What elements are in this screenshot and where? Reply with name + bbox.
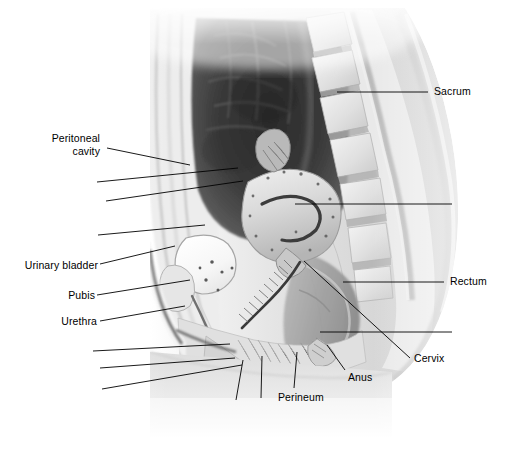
label-leader-lines xyxy=(0,0,512,473)
leader-uterus-upper xyxy=(97,168,238,182)
label-anus: Anus xyxy=(348,371,372,384)
leader-lower-3 xyxy=(102,365,242,389)
leader-vagina xyxy=(98,225,205,235)
leader-anus xyxy=(327,345,345,370)
labeled-leader-group xyxy=(97,92,444,388)
label-sacrum: Sacrum xyxy=(434,85,471,98)
label-perineum: Perineum xyxy=(278,391,324,404)
unlabeled-leader-group xyxy=(93,168,452,400)
leader-urethra xyxy=(100,306,185,321)
leader-pubis xyxy=(97,280,190,295)
leader-perineum xyxy=(294,352,297,388)
leader-lower-1 xyxy=(93,344,230,351)
label-peritoneal-cavity: Peritoneal cavity xyxy=(0,132,100,157)
label-rectum: Rectum xyxy=(450,275,487,288)
leader-uterus-lower xyxy=(106,181,243,201)
leader-lower-2 xyxy=(100,358,235,368)
label-pubis: Pubis xyxy=(0,289,95,302)
leader-peritoneal-cavity xyxy=(107,148,190,165)
label-cervix: Cervix xyxy=(414,352,444,365)
label-peritoneal-cavity-line1: Peritoneal xyxy=(0,132,100,145)
leader-clitoris xyxy=(261,356,262,398)
label-urinary-bladder: Urinary bladder xyxy=(0,259,98,272)
label-urethra: Urethra xyxy=(0,315,97,328)
anatomical-figure: Peritoneal cavity Urinary bladder Pubis … xyxy=(0,0,512,473)
leader-cervix xyxy=(304,261,410,358)
label-peritoneal-cavity-line2: cavity xyxy=(0,145,100,158)
leader-urinary-bladder xyxy=(100,246,175,264)
